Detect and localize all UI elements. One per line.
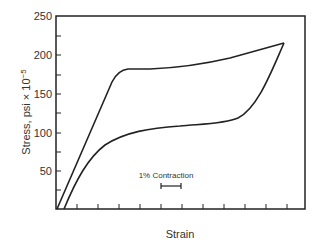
y-tick-150: 150 <box>34 88 52 100</box>
y-tick-200: 200 <box>34 49 52 61</box>
plot-frame <box>56 16 305 209</box>
y-tick-labels: 250 200 150 100 50 <box>34 10 52 177</box>
contraction-scale-bar: 1% Contraction <box>139 171 194 189</box>
x-axis-title: Strain <box>166 228 195 240</box>
stress-strain-chart: 250 200 150 100 50 Stress, psi × 10−5 St… <box>0 0 322 251</box>
y-tick-50: 50 <box>40 165 52 177</box>
y-tick-100: 100 <box>34 127 52 139</box>
y-axis-title: Stress, psi × 10−5 <box>19 69 32 155</box>
y-tick-250: 250 <box>34 10 52 22</box>
contraction-label: 1% Contraction <box>139 171 194 180</box>
